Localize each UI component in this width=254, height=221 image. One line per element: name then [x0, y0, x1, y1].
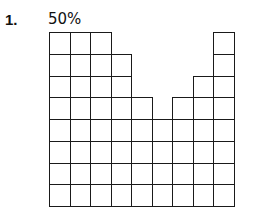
grid-cell: [131, 97, 153, 120]
grid-cell: [131, 141, 153, 164]
grid-cell: [193, 163, 215, 186]
grid-cell: [172, 141, 194, 164]
grid-cell: [131, 163, 153, 186]
grid-cell: [49, 119, 71, 142]
grid-cell: [213, 119, 235, 142]
grid-cell: [152, 184, 174, 207]
grid-cell: [70, 141, 92, 164]
grid-cell: [213, 54, 235, 77]
grid-cell: [131, 184, 153, 207]
grid-cell: [90, 54, 112, 77]
grid-cell: [90, 32, 112, 55]
problem-number: 1.: [5, 11, 18, 28]
grid-cell: [70, 184, 92, 207]
grid-cell: [193, 119, 215, 142]
grid-cell: [70, 32, 92, 55]
grid-cell: [213, 141, 235, 164]
cell-grid-figure: [49, 32, 234, 206]
grid-cell: [49, 97, 71, 120]
grid-cell: [193, 97, 215, 120]
grid-cell: [70, 76, 92, 99]
grid-cell: [213, 163, 235, 186]
grid-cell: [193, 141, 215, 164]
grid-cell: [111, 184, 133, 207]
grid-cell: [111, 76, 133, 99]
grid-cell: [111, 54, 133, 77]
grid-cell: [213, 32, 235, 55]
grid-cell: [172, 163, 194, 186]
grid-cell: [90, 184, 112, 207]
grid-cell: [131, 119, 153, 142]
grid-cell: [90, 119, 112, 142]
grid-cell: [213, 97, 235, 120]
grid-cell: [152, 163, 174, 186]
grid-cell: [49, 163, 71, 186]
grid-cell: [111, 119, 133, 142]
grid-cell: [70, 54, 92, 77]
grid-cell: [70, 97, 92, 120]
grid-cell: [111, 97, 133, 120]
grid-cell: [90, 141, 112, 164]
grid-cell: [213, 184, 235, 207]
grid-cell: [152, 119, 174, 142]
grid-cell: [111, 163, 133, 186]
grid-cell: [213, 76, 235, 99]
grid-cell: [111, 141, 133, 164]
grid-cell: [49, 54, 71, 77]
grid-cell: [172, 97, 194, 120]
grid-cell: [90, 76, 112, 99]
grid-cell: [70, 119, 92, 142]
grid-cell: [193, 76, 215, 99]
percent-label: 50%: [48, 10, 81, 28]
grid-cell: [90, 163, 112, 186]
grid-cell: [172, 184, 194, 207]
grid-cell: [49, 141, 71, 164]
grid-cell: [193, 184, 215, 207]
grid-cell: [90, 97, 112, 120]
grid-cell: [49, 184, 71, 207]
grid-cell: [152, 141, 174, 164]
grid-cell: [49, 32, 71, 55]
grid-cell: [172, 119, 194, 142]
grid-cell: [70, 163, 92, 186]
grid-cell: [49, 76, 71, 99]
